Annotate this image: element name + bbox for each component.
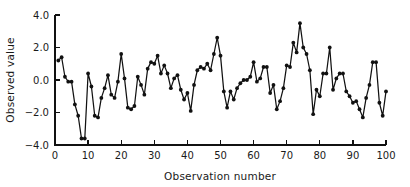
x-tick-label: 80 xyxy=(313,150,326,161)
data-point xyxy=(305,52,309,56)
data-point xyxy=(93,114,97,118)
data-point xyxy=(90,85,94,89)
data-point xyxy=(229,89,233,93)
data-point xyxy=(63,75,67,79)
data-point xyxy=(374,60,378,64)
data-point xyxy=(381,114,385,118)
data-point xyxy=(182,98,186,102)
data-point xyxy=(209,68,213,72)
data-point xyxy=(368,83,372,87)
y-axis-tick-labels: −4.0−2.00.02.04.0 xyxy=(25,10,49,151)
data-point xyxy=(252,60,256,64)
data-point xyxy=(149,60,153,64)
data-point xyxy=(255,80,259,84)
data-point xyxy=(354,99,358,103)
y-tick-label: 2.0 xyxy=(33,42,49,53)
data-point xyxy=(133,104,137,108)
x-tick-label: 30 xyxy=(148,150,161,161)
data-point xyxy=(172,76,176,80)
data-point xyxy=(361,115,365,119)
data-point xyxy=(86,72,90,76)
data-point xyxy=(66,80,70,84)
data-point xyxy=(268,91,272,95)
data-point xyxy=(83,137,87,141)
data-point xyxy=(152,62,156,66)
chart-figure: −4.0−2.00.02.04.0 0102030405060708090100… xyxy=(0,0,410,187)
data-point xyxy=(235,86,239,90)
y-tick-label: 0.0 xyxy=(33,75,49,86)
data-point xyxy=(70,80,74,84)
data-point xyxy=(318,94,322,98)
data-point xyxy=(99,96,103,100)
x-tick-label: 50 xyxy=(214,150,227,161)
data-point xyxy=(60,55,64,59)
data-point xyxy=(80,137,84,141)
data-point xyxy=(176,73,180,77)
data-point xyxy=(225,106,229,110)
data-point xyxy=(285,63,289,67)
data-point xyxy=(205,62,209,66)
data-point xyxy=(119,52,123,56)
x-tick-label: 20 xyxy=(115,150,128,161)
data-point xyxy=(301,46,305,50)
data-point xyxy=(315,88,319,92)
data-point xyxy=(212,52,216,56)
data-point xyxy=(113,96,117,100)
data-point xyxy=(328,46,332,50)
data-point xyxy=(215,36,219,40)
data-point xyxy=(245,78,249,82)
data-point xyxy=(192,83,196,87)
x-tick-label: 10 xyxy=(82,150,95,161)
data-point xyxy=(76,114,80,118)
data-point xyxy=(106,73,110,77)
data-point xyxy=(338,72,342,76)
data-point xyxy=(377,101,381,105)
data-point xyxy=(272,83,276,87)
x-tick-label: 100 xyxy=(376,150,395,161)
data-point xyxy=(275,107,279,111)
data-point xyxy=(162,63,166,67)
x-tick-label: 0 xyxy=(52,150,58,161)
data-point xyxy=(103,86,107,90)
data-point xyxy=(129,107,133,111)
data-point xyxy=(258,76,262,80)
data-series-line xyxy=(58,23,386,138)
data-point xyxy=(109,93,113,97)
x-tick-label: 70 xyxy=(280,150,293,161)
y-tick-label: 4.0 xyxy=(33,10,49,21)
data-point xyxy=(364,96,368,100)
data-point xyxy=(159,72,163,76)
x-tick-label: 40 xyxy=(181,150,194,161)
data-point xyxy=(311,112,315,116)
data-point xyxy=(262,65,266,69)
data-point xyxy=(351,101,355,105)
data-point xyxy=(186,91,190,95)
x-tick-label: 60 xyxy=(247,150,260,161)
data-point xyxy=(308,68,312,72)
data-point xyxy=(334,76,338,80)
data-point xyxy=(358,107,362,111)
data-point xyxy=(142,93,146,97)
data-point xyxy=(288,65,292,69)
data-point xyxy=(126,106,130,110)
data-point xyxy=(199,65,203,69)
y-tick-label: −2.0 xyxy=(25,107,49,118)
data-point xyxy=(248,75,252,79)
data-point xyxy=(341,72,345,76)
data-point xyxy=(291,41,295,45)
x-tick-label: 90 xyxy=(347,150,360,161)
data-point xyxy=(169,86,173,90)
data-point xyxy=(331,88,335,92)
data-point xyxy=(298,21,302,25)
data-point xyxy=(156,54,160,58)
data-point xyxy=(348,94,352,98)
data-point xyxy=(56,59,60,63)
data-point xyxy=(73,102,77,106)
data-point xyxy=(136,75,140,79)
data-point xyxy=(202,67,206,71)
y-axis-title: Observed value xyxy=(4,37,16,122)
data-point xyxy=(116,80,120,84)
data-point xyxy=(222,89,226,93)
data-point xyxy=(232,98,236,102)
y-tick-label: −4.0 xyxy=(25,140,49,151)
